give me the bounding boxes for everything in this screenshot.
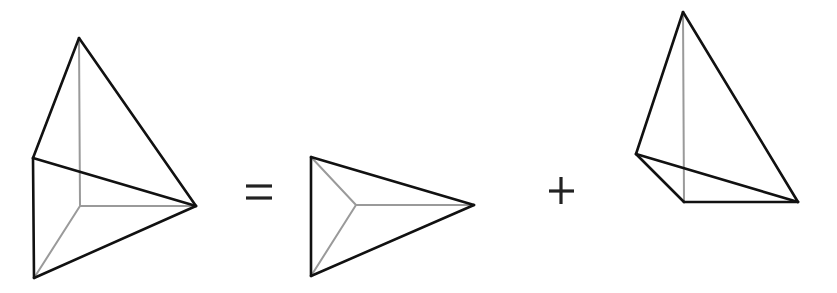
composite-solid-figure [33,38,196,278]
equals-sign [246,186,272,198]
hidden-edge [79,38,80,206]
visible-edge [33,38,79,158]
diagram-canvas [0,0,837,293]
visible-edge [311,205,474,276]
plus-sign [549,177,574,204]
visible-edge [33,158,196,206]
visible-edge [79,38,196,206]
visible-edge [33,158,34,278]
hidden-edge [683,12,684,202]
tetrahedron-a-figure [311,157,474,276]
diagram-svg [0,0,837,293]
visible-edge [311,157,474,205]
visible-edge [34,206,196,278]
visible-edge [636,12,683,154]
tetrahedron-b-figure [636,12,798,202]
